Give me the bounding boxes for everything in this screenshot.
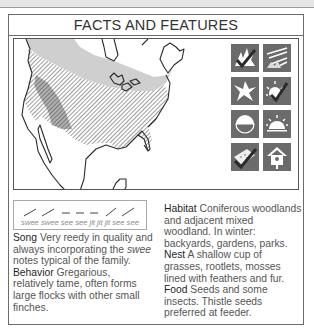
song-notes: swee swee see see jit jit jit see see	[14, 218, 146, 227]
behavior-label: Behavior	[13, 267, 54, 278]
song-section: Song Very reedy in quality and always in…	[13, 232, 153, 267]
sunrise-icon	[263, 110, 291, 138]
diurnal-sun-icon	[263, 77, 291, 105]
page-top-band	[0, 0, 314, 8]
facts-card: FACTS AND FEATURES	[8, 14, 304, 325]
nest-section: Nest A shallow cup of grasses, rootlets,…	[164, 249, 302, 284]
field-habitat-icon	[263, 44, 291, 72]
feeder-tray-icon	[231, 143, 259, 171]
coniferous-habitat-icon	[231, 44, 259, 72]
birdhouse-icon	[263, 143, 291, 171]
song-diagram: swee swee see see jit jit jit see see	[13, 200, 147, 230]
left-text-column: Song Very reedy in quality and always in…	[13, 232, 153, 313]
nest-label: Nest	[164, 249, 185, 260]
half-moon-icon	[231, 110, 259, 138]
food-label: Food	[164, 284, 187, 295]
song-label: Song	[13, 232, 37, 243]
food-section: Food Seeds and some insects. Thistle see…	[164, 284, 302, 319]
behavior-section: Behavior Gregarious, relatively tame, of…	[13, 267, 153, 313]
right-text-column: Habitat Coniferous woodlands and adjacen…	[164, 203, 302, 319]
card-title: FACTS AND FEATURES	[9, 15, 303, 36]
range-map-frame	[13, 38, 299, 190]
habitat-section: Habitat Coniferous woodlands and adjacen…	[164, 203, 302, 249]
habitat-label: Habitat	[164, 203, 197, 214]
flight-pattern-icon	[231, 77, 259, 105]
